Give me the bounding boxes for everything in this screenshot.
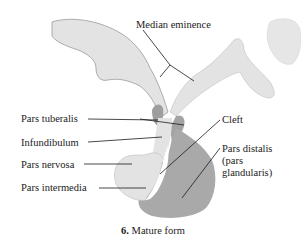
label-pars-intermedia: Pars intermedia bbox=[21, 182, 87, 193]
label-median-eminence: Median eminence bbox=[136, 19, 211, 30]
figure-number: 6. bbox=[121, 225, 129, 236]
label-cleft: Cleft bbox=[222, 114, 243, 125]
label-pars-distalis-line2: (pars bbox=[222, 155, 243, 166]
hypothalamus-left-wing bbox=[52, 19, 168, 118]
label-pars-nervosa: Pars nervosa bbox=[21, 159, 74, 170]
figure-caption: 6. Mature form bbox=[0, 225, 306, 236]
figure-caption-text: Mature form bbox=[132, 225, 185, 236]
label-pars-distalis-line3: glandularis) bbox=[222, 167, 272, 178]
label-pars-tuberalis: Pars tuberalis bbox=[21, 113, 78, 124]
hypothalamus-right-wing bbox=[170, 39, 274, 116]
label-pars-distalis-line1: Pars distalis bbox=[222, 143, 272, 154]
hypothalamus-right-upper bbox=[267, 19, 301, 65]
label-infundibulum: Infundibulum bbox=[21, 137, 79, 148]
pituitary-diagram: Median eminence Pars tuberalis Infundibu… bbox=[0, 0, 306, 244]
